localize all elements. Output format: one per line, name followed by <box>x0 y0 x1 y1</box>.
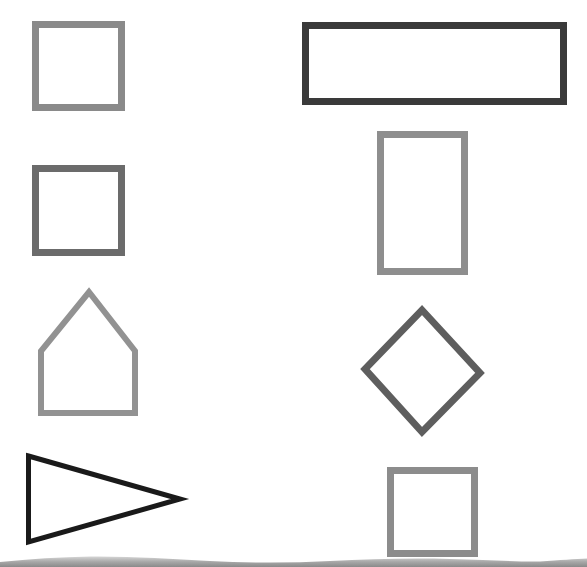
shapes-worksheet <box>0 0 587 567</box>
worksheet-background <box>0 0 587 567</box>
